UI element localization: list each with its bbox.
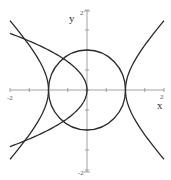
y-max-label: 2 — [80, 9, 84, 17]
y-min-label: -2 — [78, 169, 84, 177]
x-axis-label: x — [157, 99, 163, 111]
x-min-label: -2 — [7, 94, 13, 102]
y-axis-label: y — [69, 12, 75, 24]
implicit-curves-plot: -2 2 2 -2 x y — [0, 0, 171, 180]
